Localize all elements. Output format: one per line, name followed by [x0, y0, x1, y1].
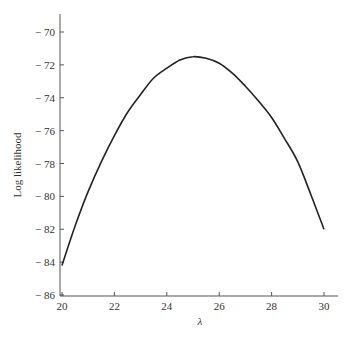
- y-tick-label: − 76: [35, 125, 55, 137]
- y-tick-label: − 80: [35, 190, 55, 202]
- log-likelihood-chart: − 70− 72− 74− 76− 78− 80− 82− 84− 86 202…: [0, 0, 353, 339]
- chart-canvas: − 70− 72− 74− 76− 78− 80− 82− 84− 86 202…: [0, 0, 353, 339]
- y-tick-label: − 70: [35, 26, 55, 38]
- y-tick-label: − 86: [35, 289, 55, 301]
- y-axis-label: Log likelihood: [11, 132, 23, 198]
- x-tick-label: 26: [214, 300, 226, 312]
- x-axis-label: λ: [197, 315, 203, 327]
- y-tick-label: − 84: [35, 256, 55, 268]
- x-axis: 202224262830: [57, 292, 339, 312]
- x-tick-label: 28: [266, 300, 278, 312]
- y-tick-label: − 72: [35, 59, 55, 71]
- x-tick-label: 30: [319, 300, 331, 312]
- y-tick-label: − 82: [35, 223, 55, 235]
- x-tick-label: 20: [57, 300, 69, 312]
- y-tick-label: − 74: [35, 92, 55, 104]
- y-axis: − 70− 72− 74− 76− 78− 80− 82− 84− 86: [35, 14, 64, 301]
- likelihood-curve: [62, 57, 324, 266]
- x-tick-label: 24: [161, 300, 173, 312]
- y-tick-label: − 78: [35, 158, 55, 170]
- plot-area: [62, 57, 324, 266]
- x-tick-label: 22: [109, 300, 120, 312]
